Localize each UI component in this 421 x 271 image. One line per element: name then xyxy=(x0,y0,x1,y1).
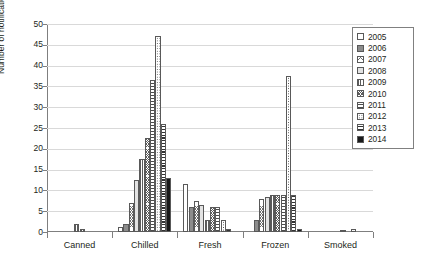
bar-smoked-2012 xyxy=(351,229,356,232)
bar-group xyxy=(243,24,308,232)
x-axis-separator xyxy=(373,232,374,238)
y-axis-tick-label: 35 xyxy=(21,82,43,91)
x-axis-category-label: Canned xyxy=(47,240,112,250)
bar-frozen-2008 xyxy=(265,197,270,232)
legend-item-2005[interactable]: 2005 xyxy=(357,31,410,42)
bar-frozen-2006 xyxy=(254,220,259,232)
bar-fresh-2006 xyxy=(189,207,194,232)
x-axis-category-label: Smoked xyxy=(308,240,373,250)
bar-group xyxy=(47,24,112,232)
bar-chilled-2011 xyxy=(150,80,155,232)
legend-label: 2006 xyxy=(368,44,386,52)
legend-label: 2011 xyxy=(368,101,386,109)
bar-frozen-2011 xyxy=(281,195,286,232)
legend-label: 2014 xyxy=(368,135,386,143)
y-axis-tick-label: 45 xyxy=(21,40,43,49)
bar-chilled-2012 xyxy=(155,36,160,232)
bar-frozen-2013 xyxy=(291,195,296,232)
bar-fresh-2005 xyxy=(183,184,188,232)
x-axis-category-label: Frozen xyxy=(243,240,308,250)
bar-chilled-2009 xyxy=(139,159,144,232)
legend-swatch-icon xyxy=(357,124,364,131)
bar-smoked-2010 xyxy=(340,230,345,232)
legend-item-2008[interactable]: 2008 xyxy=(357,65,410,76)
y-axis-tick-label: 30 xyxy=(21,103,43,112)
legend-label: 2008 xyxy=(368,67,386,75)
bar-frozen-2007 xyxy=(259,199,264,232)
legend-swatch-icon xyxy=(357,90,364,97)
legend-label: 2009 xyxy=(368,78,386,86)
chart-legend: 2005200620072008200920102011201220132014 xyxy=(352,27,414,149)
legend-label: 2005 xyxy=(368,33,386,41)
legend-item-2011[interactable]: 2011 xyxy=(357,99,410,110)
y-axis-tick-label: 15 xyxy=(21,165,43,174)
x-axis-separator xyxy=(177,232,178,238)
bar-chilled-2010 xyxy=(145,138,150,232)
x-axis-category-label: Fresh xyxy=(177,240,242,250)
bar-fresh-2007 xyxy=(194,201,199,232)
y-axis-tick-label: 10 xyxy=(21,186,43,195)
y-axis-title: Number of notifications xyxy=(0,0,6,74)
legend-label: 2012 xyxy=(368,112,386,120)
y-axis-tick-label: 20 xyxy=(21,144,43,153)
legend-item-2013[interactable]: 2013 xyxy=(357,122,410,133)
y-axis-tick-label: 0 xyxy=(21,228,43,237)
legend-item-2014[interactable]: 2014 xyxy=(357,134,410,145)
bar-fresh-2011 xyxy=(215,207,220,232)
x-axis-category-label: Chilled xyxy=(112,240,177,250)
bar-canned-2010 xyxy=(80,229,85,232)
bar-frozen-2014 xyxy=(297,229,302,232)
bar-fresh-2010 xyxy=(210,207,215,232)
bar-canned-2009 xyxy=(74,224,79,232)
legend-swatch-icon xyxy=(357,45,364,52)
legend-swatch-icon xyxy=(357,102,364,109)
legend-label: 2010 xyxy=(368,90,386,98)
bar-fresh-2012 xyxy=(221,220,226,232)
bar-chilled-2013 xyxy=(161,124,166,232)
legend-item-2006[interactable]: 2006 xyxy=(357,42,410,53)
x-axis-separator xyxy=(243,232,244,238)
bar-fresh-2013 xyxy=(226,229,231,232)
bar-fresh-2008 xyxy=(199,205,204,232)
legend-item-2012[interactable]: 2012 xyxy=(357,111,410,122)
y-axis-tick-label: 5 xyxy=(21,207,43,216)
bar-group xyxy=(112,24,177,232)
legend-swatch-icon xyxy=(357,33,364,40)
bar-frozen-2009 xyxy=(270,195,275,232)
plot-area xyxy=(47,24,373,232)
legend-item-2010[interactable]: 2010 xyxy=(357,88,410,99)
legend-swatch-icon xyxy=(357,79,364,86)
legend-swatch-icon xyxy=(357,113,364,120)
legend-label: 2007 xyxy=(368,55,386,63)
x-axis-separator xyxy=(308,232,309,238)
legend-swatch-icon xyxy=(357,56,364,63)
x-axis-separator xyxy=(112,232,113,238)
x-axis-separator xyxy=(47,232,48,238)
bar-chilled-2005 xyxy=(118,227,123,232)
bar-fresh-2009 xyxy=(205,220,210,232)
bar-chart: Number of notifications 0510152025303540… xyxy=(0,0,421,271)
y-axis-tick-label: 50 xyxy=(21,20,43,29)
bar-frozen-2010 xyxy=(275,195,280,232)
bar-chilled-2007 xyxy=(129,203,134,232)
bar-group xyxy=(177,24,242,232)
legend-swatch-icon xyxy=(357,67,364,74)
legend-label: 2013 xyxy=(368,124,386,132)
legend-item-2009[interactable]: 2009 xyxy=(357,77,410,88)
legend-item-2007[interactable]: 2007 xyxy=(357,54,410,65)
bar-chilled-2008 xyxy=(134,180,139,232)
bar-frozen-2012 xyxy=(286,76,291,232)
bar-chilled-2006 xyxy=(123,224,128,232)
bar-chilled-2014 xyxy=(166,178,171,232)
y-axis-tick-label: 40 xyxy=(21,61,43,70)
y-axis-tick-label: 25 xyxy=(21,124,43,133)
legend-swatch-icon xyxy=(357,136,364,143)
